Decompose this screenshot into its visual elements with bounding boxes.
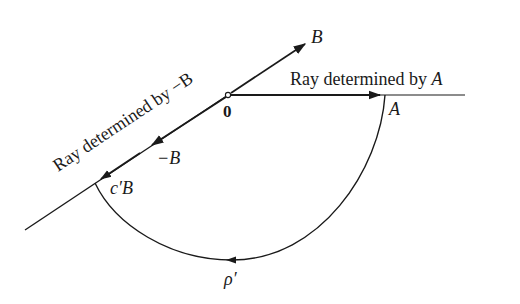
origin-label: 0 (223, 102, 232, 121)
arrow-to-cb (101, 153, 140, 179)
curve-rho-label: ρ′ (223, 269, 238, 289)
origin-point (225, 92, 230, 97)
vector-neg-b-label: −B (157, 148, 180, 168)
vector-b-label: B (311, 26, 323, 47)
ray-a-caption: Ray determined by A (290, 69, 443, 89)
curve-arrowhead (226, 257, 236, 264)
diagram-canvas: 0 B A −B c′B ρ′ Ray determined by A Ray … (0, 0, 520, 304)
point-a-label: A (388, 99, 401, 119)
point-cb-label: c′B (110, 178, 133, 198)
